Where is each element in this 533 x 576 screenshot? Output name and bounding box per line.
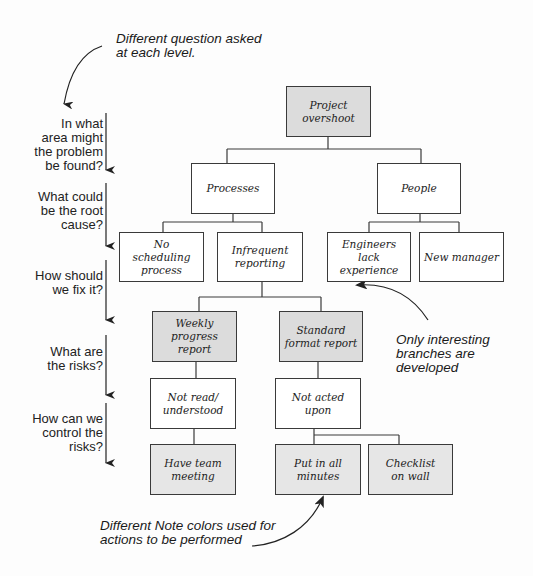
node-infrequent-reporting: Infrequent reporting [217, 232, 303, 282]
level-question-3: How should we fix it? [35, 269, 103, 297]
node-not-acted-upon: Not acted upon [275, 378, 361, 429]
node-checklist-on-wall: Checklist on wall [368, 444, 453, 495]
level-question-2: What could be the root cause? [38, 190, 103, 232]
level-question-1: In what area might the problem be found? [34, 117, 103, 173]
annotation-branches: Only interesting branches are developed [396, 333, 490, 375]
issue-tree-diagram: Different question asked at each level. … [0, 0, 533, 576]
level-question-4: What are the risks? [47, 345, 103, 373]
node-standard-format-report: Standard format report [279, 311, 363, 362]
node-not-read-understood: Not read/ understood [150, 378, 236, 429]
level-question-5: How can we control the risks? [32, 412, 103, 454]
annotation-levels: Different question asked at each level. [116, 32, 262, 60]
node-weekly-progress-report: Weekly progress report [152, 311, 237, 362]
node-project-overshoot: Project overshoot [286, 86, 371, 137]
node-have-team-meeting: Have team meeting [150, 444, 236, 495]
annotation-note-colors: Different Note colors used for actions t… [100, 519, 276, 547]
node-put-in-all-minutes: Put in all minutes [275, 444, 361, 495]
node-new-manager: New manager [419, 232, 504, 282]
node-people: People [377, 163, 461, 214]
node-no-scheduling-process: No scheduling process [119, 232, 204, 282]
node-engineers-lack-experience: Engineers lack experience [327, 232, 411, 282]
node-processes: Processes [191, 163, 275, 214]
